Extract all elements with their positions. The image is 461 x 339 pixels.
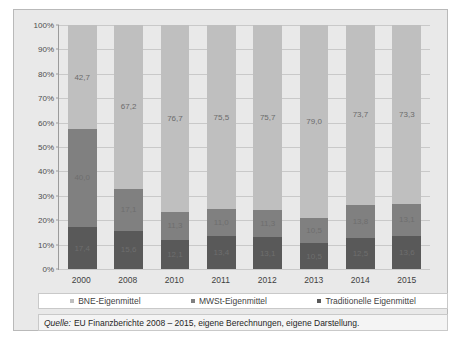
bar-segment[interactable]: 73,3 [392, 25, 421, 204]
stacked-bar[interactable]: 73,713,812,5 [346, 25, 375, 269]
y-axis-tick-label: 60% [38, 118, 54, 127]
source-note: Quelle: EU Finanzberichte 2008 – 2015, e… [38, 314, 448, 331]
stacked-bar[interactable]: 75,711,313,1 [253, 25, 282, 269]
bar-slot-2015: 73,313,113,6 [384, 25, 430, 269]
bar-segment[interactable]: 13,4 [207, 236, 236, 269]
stacked-bar[interactable]: 75,511,013,4 [207, 25, 236, 269]
y-axis-tick-label: 40% [38, 167, 54, 176]
bar-slot-2013: 79,010,510,5 [291, 25, 337, 269]
y-axis-tick-label: 30% [38, 191, 54, 200]
bar-segment[interactable]: 11,0 [207, 209, 236, 236]
bar-segment[interactable]: 40,0 [68, 129, 97, 227]
y-axis-tick-label: 10% [38, 240, 54, 249]
bar-value-label: 15,6 [121, 245, 137, 254]
bar-value-label: 75,7 [260, 113, 276, 122]
source-prefix: Quelle: [44, 318, 71, 328]
x-axis: 20002008201020112012201320142015 [58, 273, 430, 287]
bar-segment[interactable]: 75,7 [253, 25, 282, 210]
bar-value-label: 40,0 [74, 173, 90, 182]
bar-segment[interactable]: 67,2 [114, 25, 143, 189]
bar-slot-2008: 67,217,115,6 [105, 25, 151, 269]
bar-segment[interactable]: 13,6 [392, 236, 421, 269]
stacked-bar[interactable]: 73,313,113,6 [392, 25, 421, 269]
legend-item[interactable]: Traditionelle Eigenmittel [317, 296, 415, 306]
bar-slot-2000: 42,740,017,4 [59, 25, 105, 269]
bar-value-label: 12,1 [167, 250, 183, 259]
bar-segment[interactable]: 17,1 [114, 189, 143, 231]
y-axis-tick-label: 70% [38, 94, 54, 103]
bar-slot-2014: 73,713,812,5 [337, 25, 383, 269]
bar-segment[interactable]: 17,4 [68, 227, 97, 269]
x-axis-tick-label: 2015 [384, 273, 431, 287]
bar-value-label: 42,7 [74, 73, 90, 82]
bar-value-label: 12,5 [353, 249, 369, 258]
bar-segment[interactable]: 42,7 [68, 25, 97, 129]
y-axis-tick-label: 100% [34, 21, 54, 30]
figure-container: 0%10%20%30%40%50%60%70%80%90%100% 42,740… [13, 9, 448, 331]
y-axis-tick-label: 20% [38, 216, 54, 225]
stacked-bar[interactable]: 67,217,115,6 [114, 25, 143, 269]
stacked-bar[interactable]: 76,711,312,1 [161, 25, 190, 269]
bar-segment[interactable]: 13,1 [253, 237, 282, 269]
chart-area: 0%10%20%30%40%50%60%70%80%90%100% 42,740… [26, 17, 436, 282]
legend-item[interactable]: BNE-Eigenmittel [70, 296, 140, 306]
x-axis-tick-label: 2008 [105, 273, 152, 287]
bar-segment[interactable]: 12,1 [161, 240, 190, 270]
cut-off-title [0, 0, 461, 9]
chart-legend: BNE-EigenmittelMWSt-EigenmittelTradition… [38, 293, 448, 309]
y-axis-tick-label: 0% [42, 265, 54, 274]
plot-area: 0%10%20%30%40%50%60%70%80%90%100% 42,740… [58, 25, 430, 270]
bar-segment[interactable]: 13,8 [346, 205, 375, 239]
legend-swatch-icon [317, 299, 321, 303]
bar-slot-2011: 75,511,013,4 [198, 25, 244, 269]
stacked-bar[interactable]: 79,010,510,5 [300, 25, 329, 269]
bar-value-label: 76,7 [167, 114, 183, 123]
x-axis-tick-label: 2014 [337, 273, 384, 287]
y-axis-tick-label: 90% [38, 45, 54, 54]
bar-value-label: 17,1 [121, 205, 137, 214]
bar-value-label: 10,5 [306, 252, 322, 261]
x-axis-tick-label: 2011 [198, 273, 245, 287]
bar-slot-2010: 76,711,312,1 [152, 25, 198, 269]
source-text: EU Finanzberichte 2008 – 2015, eigene Be… [74, 318, 359, 328]
bar-segment[interactable]: 76,7 [161, 25, 190, 212]
bar-value-label: 11,0 [214, 218, 229, 227]
bar-value-label: 75,5 [214, 113, 230, 122]
legend-label: MWSt-Eigenmittel [199, 296, 267, 306]
bar-segment[interactable]: 75,5 [207, 25, 236, 209]
bar-value-label: 17,4 [74, 244, 90, 253]
bar-segment[interactable]: 11,3 [161, 212, 190, 240]
stacked-bar[interactable]: 42,740,017,4 [68, 25, 97, 269]
bar-group: 42,740,017,467,217,115,676,711,312,175,5… [59, 25, 430, 269]
legend-label: BNE-Eigenmittel [78, 296, 140, 306]
bar-segment[interactable]: 10,5 [300, 243, 329, 269]
bar-value-label: 13,8 [353, 217, 369, 226]
x-axis-tick-label: 2013 [291, 273, 338, 287]
bar-segment[interactable]: 73,7 [346, 25, 375, 205]
bar-segment[interactable]: 79,0 [300, 25, 329, 218]
figure-page: 0%10%20%30%40%50%60%70%80%90%100% 42,740… [0, 0, 461, 339]
bar-segment[interactable]: 15,6 [114, 231, 143, 269]
legend-item[interactable]: MWSt-Eigenmittel [191, 296, 267, 306]
x-axis-tick-label: 2010 [151, 273, 198, 287]
x-axis-tick-label: 2012 [244, 273, 291, 287]
y-axis-tick-label: 50% [38, 143, 54, 152]
bar-value-label: 67,2 [121, 102, 137, 111]
bar-value-label: 13,1 [399, 215, 415, 224]
x-axis-tick-label: 2000 [58, 273, 105, 287]
bar-value-label: 11,3 [167, 221, 182, 230]
y-axis-tick-label: 80% [38, 69, 54, 78]
bar-value-label: 11,3 [260, 219, 275, 228]
bar-value-label: 13,1 [260, 249, 276, 258]
legend-swatch-icon [70, 299, 74, 303]
bar-segment[interactable]: 11,3 [253, 210, 282, 238]
bar-segment[interactable]: 12,5 [346, 238, 375, 269]
bar-value-label: 73,7 [353, 110, 369, 119]
bar-value-label: 10,5 [306, 226, 322, 235]
legend-swatch-icon [191, 299, 195, 303]
bar-segment[interactable]: 10,5 [300, 218, 329, 244]
legend-label: Traditionelle Eigenmittel [325, 296, 415, 306]
bar-value-label: 13,4 [214, 248, 230, 257]
bar-segment[interactable]: 13,1 [392, 204, 421, 236]
bar-value-label: 73,3 [399, 110, 415, 119]
